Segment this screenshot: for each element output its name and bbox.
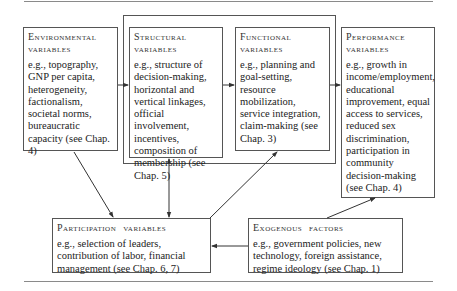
box-body: e.g., growth in income/employment, educa…	[346, 59, 431, 194]
box-title: Exogenous factors	[253, 222, 399, 234]
box-body: e.g., planning and goal-setting, resourc…	[240, 59, 326, 145]
arrow-environmental-to-participation	[74, 152, 113, 217]
exogenous-factors-box: Exogenous factors e.g., government polic…	[248, 218, 403, 273]
box-body: e.g., topography, GNP per capita, hetero…	[28, 59, 114, 157]
title-line: Environmental	[28, 31, 114, 43]
title-line: Structural	[134, 31, 219, 43]
box-body: e.g., structure of decision-making, hori…	[134, 59, 219, 182]
structural-variables-box: Structural variables e.g., structure of …	[129, 27, 223, 158]
performance-variables-box: Performance variables e.g., growth in in…	[341, 27, 435, 198]
box-body: e.g., government policies, new technolog…	[253, 238, 399, 275]
box-title: Structural variables	[134, 31, 219, 55]
title-line: Performance	[346, 31, 431, 43]
box-title: Performance variables	[346, 31, 431, 55]
bottom-rule	[24, 281, 433, 282]
environmental-variables-box: Environmental variables e.g., topography…	[23, 27, 118, 151]
top-rule	[24, 1, 433, 2]
title-line: Functional	[240, 31, 326, 43]
box-title: Functional variables	[240, 31, 326, 55]
title-line: variables	[134, 43, 219, 55]
arrow-exogenous-to-performance	[327, 198, 375, 218]
box-title: Participation variables	[57, 222, 207, 234]
box-title: Environmental variables	[28, 31, 114, 55]
title-line: variables	[346, 43, 431, 55]
box-body: e.g., selection of leaders, contribution…	[57, 238, 207, 275]
title-line: variables	[240, 43, 326, 55]
functional-variables-box: Functional variables e.g., planning and …	[235, 27, 330, 151]
title-line: variables	[28, 43, 114, 55]
participation-variables-box: Participation variables e.g., selection …	[52, 218, 211, 273]
